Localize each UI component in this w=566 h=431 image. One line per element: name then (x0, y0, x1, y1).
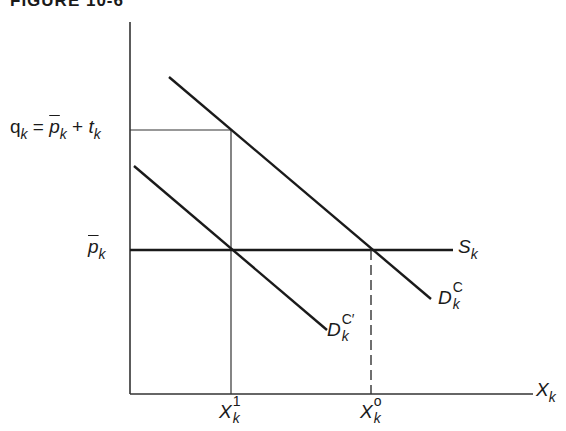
plus-sign: + (67, 116, 89, 137)
demand-curve-dc (169, 77, 431, 299)
supply-subscript: k (471, 246, 478, 262)
q-subscript: k (21, 126, 28, 142)
x-axis-subscript: k (549, 389, 556, 405)
x0-superscript: o (374, 393, 382, 409)
t-subscript: k (94, 126, 101, 142)
p-bar-symbol: p (49, 116, 60, 137)
dc-prime-label: DC′k (327, 319, 363, 341)
x1-superscript: 1 (233, 393, 241, 409)
equals-sign: = (28, 116, 50, 137)
supply-label: Sk (458, 236, 478, 258)
dc-superscript: C (453, 279, 463, 295)
diagram-canvas (0, 0, 566, 431)
x0-subscript: k (374, 410, 381, 426)
x1-subscript: k (233, 410, 240, 426)
x1-symbol: X (219, 401, 232, 422)
x1-label: X1k (219, 401, 246, 423)
dc-symbol: D (438, 287, 452, 308)
p-bar-axis-subscript: k (99, 246, 106, 262)
dc-subscript: k (453, 296, 460, 312)
p-subscript: k (60, 126, 67, 142)
dc-prime-symbol: D (327, 319, 341, 340)
t-symbol: t (88, 116, 93, 137)
x0-label: Xok (360, 401, 387, 423)
q-price-label: qk = pk + tk (10, 116, 101, 138)
x-axis-label: Xk (536, 379, 556, 401)
p-bar-axis-symbol: p (88, 236, 99, 257)
supply-symbol: S (458, 236, 471, 257)
dc-prime-subscript: k (342, 328, 349, 344)
x0-symbol: X (360, 401, 373, 422)
p-bar-axis-label: pk (88, 236, 106, 258)
x-axis-symbol: X (536, 379, 549, 400)
dc-prime-superscript: C′ (342, 311, 355, 327)
q-symbol: q (10, 116, 21, 137)
dc-label: DCk (438, 287, 466, 309)
